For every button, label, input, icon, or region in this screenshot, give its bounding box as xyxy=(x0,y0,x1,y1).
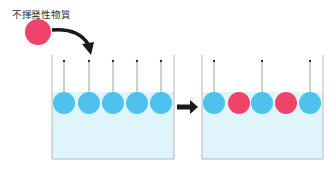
solvent-particle xyxy=(150,92,172,114)
vapor-dot xyxy=(63,60,65,62)
vapor-dot xyxy=(112,60,114,62)
transition-arrow-icon xyxy=(177,100,198,114)
vapor-dot xyxy=(309,60,311,62)
solute-particle xyxy=(228,92,250,114)
solvent-particle xyxy=(102,92,124,114)
add-arrow-icon xyxy=(52,30,88,44)
container-before xyxy=(52,55,174,159)
solvent-particle xyxy=(251,92,273,114)
vapor-dot xyxy=(160,60,162,62)
solvent-particle xyxy=(53,92,75,114)
solute-particle xyxy=(275,92,297,114)
added-solute-particle xyxy=(25,19,51,45)
solvent-particle xyxy=(126,92,148,114)
container-after xyxy=(202,55,323,159)
solvent-particle xyxy=(203,92,225,114)
vapor-pressure-diagram xyxy=(0,0,333,169)
vapor-dot xyxy=(88,60,90,62)
vapor-dot xyxy=(136,60,138,62)
vapor-dot xyxy=(213,60,215,62)
solvent-particle xyxy=(299,92,321,114)
vapor-dot xyxy=(261,60,263,62)
solvent-particle xyxy=(78,92,100,114)
add-arrowhead-icon xyxy=(82,42,94,55)
